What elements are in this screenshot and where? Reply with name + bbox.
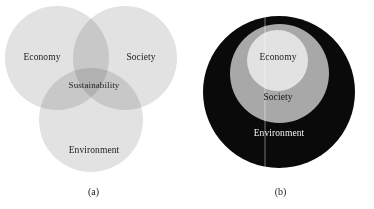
nested-stage: Economy Society Environment [187,0,374,183]
nested-label-environment: Environment [237,128,321,138]
sustainability-models-figure: Economy Society Environment Sustainabili… [0,0,374,209]
caption-panel-a: (a) [0,186,187,197]
venn-stage: Economy Society Environment Sustainabili… [0,0,187,183]
venn-label-sustainability: Sustainability [48,80,140,90]
venn-label-environment: Environment [58,145,130,155]
venn-label-society: Society [112,52,170,62]
panel-a-venn-diagram: Economy Society Environment Sustainabili… [0,0,187,209]
panel-b-nested-circles: Economy Society Environment (b) [187,0,374,209]
caption-panel-b: (b) [187,186,374,197]
venn-label-economy: Economy [11,52,73,62]
nested-label-society: Society [245,92,311,102]
nested-label-economy: Economy [245,52,311,62]
